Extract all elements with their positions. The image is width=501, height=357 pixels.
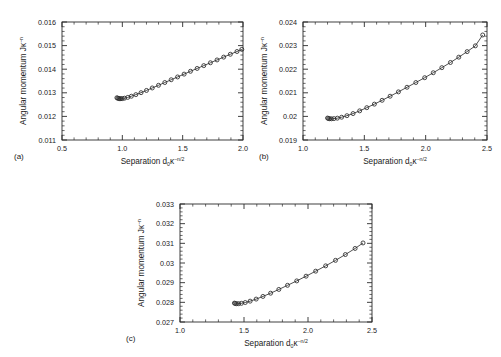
x-axis-title-sup: −n/2 (298, 338, 308, 344)
figure-container: 0.51.01.52.00.0110.0120.0130.0140.0150.0… (0, 0, 501, 357)
y-tick-label: 0.032 (156, 219, 174, 228)
plot-frame (62, 22, 243, 140)
y-axis-title-sup: −n (136, 219, 142, 225)
y-axis-title: Angular momentum Jκ−n (136, 219, 146, 307)
x-axis-title-main: Separation d (121, 157, 168, 166)
x-axis-title-main: Separation d (244, 339, 291, 348)
plot-panel-c: 1.01.52.02.50.0270.0280.0290.030.0310.03… (120, 182, 390, 357)
y-tick-label: 0.021 (279, 88, 297, 97)
x-tick-label: 1.5 (178, 144, 188, 153)
x-tick-label: 2.0 (303, 326, 313, 335)
x-tick-label: 1.5 (359, 144, 369, 153)
plot-panel-a: 0.51.01.52.00.0110.0120.0130.0140.0150.0… (0, 0, 260, 175)
x-axis-title-main: Separation d (363, 157, 410, 166)
plot-a-content: 0.51.01.52.00.0110.0120.0130.0140.0150.0… (18, 18, 248, 168)
y-tick-label: 0.022 (279, 65, 297, 74)
plot-c-content: 1.01.52.02.50.0270.0280.0290.030.0310.03… (136, 200, 377, 350)
x-axis-title-sup: −n/2 (174, 156, 184, 162)
panel-label-a: (a) (14, 152, 24, 161)
x-tick-label: 1.0 (298, 144, 308, 153)
y-axis-title: Angular momentum Jκ−n (259, 37, 269, 125)
data-point (481, 33, 485, 37)
y-axis-title-sup: −n (18, 37, 24, 43)
y-axis-title-main: Angular momentum Jκ (19, 42, 28, 125)
x-axis-title: Separation d0κ−n/2 (244, 338, 308, 349)
y-axis-title-main: Angular momentum Jκ (260, 42, 269, 125)
y-tick-label: 0.027 (156, 318, 174, 327)
x-tick-label: 2.5 (367, 326, 377, 335)
x-tick-label: 2.5 (482, 144, 492, 153)
panel-label-c: (c) (126, 334, 135, 343)
y-axis-title-main: Angular momentum Jκ (137, 224, 146, 307)
x-axis-title: Separation d0κ−n/2 (363, 156, 427, 167)
y-tick-label: 0.028 (156, 298, 174, 307)
y-tick-label: 0.031 (156, 239, 174, 248)
plot-frame (180, 204, 372, 322)
y-tick-label: 0.013 (38, 88, 56, 97)
y-tick-label: 0.02 (283, 112, 297, 121)
x-tick-label: 1.5 (239, 326, 249, 335)
y-tick-label: 0.029 (156, 278, 174, 287)
y-tick-label: 0.014 (38, 65, 56, 74)
x-tick-label: 1.0 (175, 326, 185, 335)
plot-panel-b: 1.01.52.02.50.0190.020.0210.0220.0230.02… (247, 0, 501, 175)
y-tick-label: 0.016 (38, 18, 56, 27)
y-tick-label: 0.011 (39, 136, 56, 145)
y-tick-label: 0.019 (279, 136, 297, 145)
y-tick-label: 0.023 (279, 41, 297, 50)
plot-frame (303, 22, 487, 140)
data-line (234, 243, 363, 304)
y-axis-title-sup: −n (259, 37, 265, 43)
x-tick-label: 2.0 (421, 144, 431, 153)
plot-b-svg: 1.01.52.02.50.0190.020.0210.0220.0230.02… (247, 0, 501, 175)
plot-b-content: 1.01.52.02.50.0190.020.0210.0220.0230.02… (259, 18, 492, 168)
x-tick-label: 0.5 (57, 144, 67, 153)
plot-a-svg: 0.51.01.52.00.0110.0120.0130.0140.0150.0… (0, 0, 260, 175)
panel-label-b: (b) (259, 152, 269, 161)
plot-c-svg: 1.01.52.02.50.0270.0280.0290.030.0310.03… (120, 182, 390, 357)
y-axis-title: Angular momentum Jκ−n (18, 37, 28, 125)
y-tick-label: 0.024 (279, 18, 297, 27)
y-tick-label: 0.033 (156, 200, 174, 209)
x-tick-label: 1.0 (117, 144, 127, 153)
x-axis-title-sup: −n/2 (417, 156, 427, 162)
y-tick-label: 0.03 (160, 259, 174, 268)
y-tick-label: 0.015 (38, 41, 56, 50)
data-line (328, 35, 483, 119)
y-tick-label: 0.012 (38, 112, 56, 121)
data-line (117, 49, 242, 98)
x-axis-title: Separation d0κ−n/2 (121, 156, 185, 167)
